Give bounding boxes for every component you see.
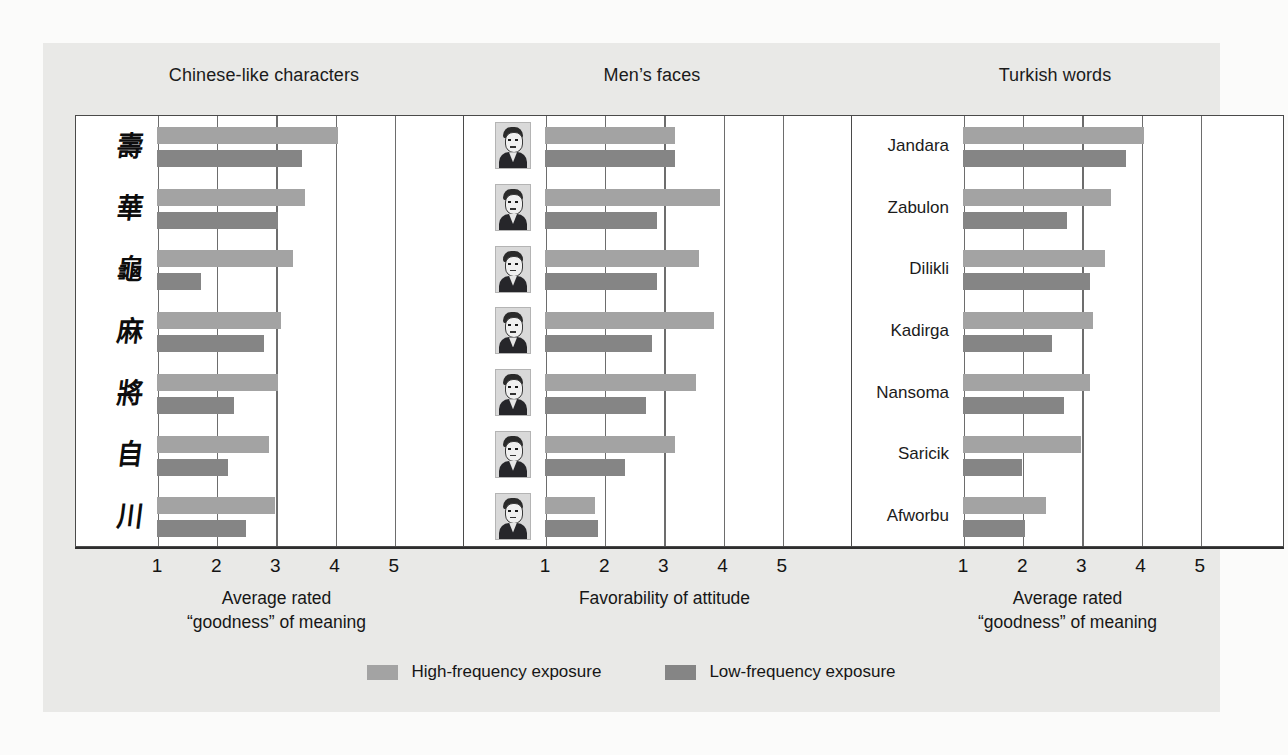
bar-high-frequency xyxy=(545,127,675,144)
x-tick-label: 3 xyxy=(658,555,669,577)
face-head-icon xyxy=(505,317,523,338)
face-eyeL-icon xyxy=(508,201,511,203)
bar-high-frequency xyxy=(963,497,1046,514)
x-axis-title-line2: “goodness” of meaning xyxy=(851,611,1284,635)
bar-high-frequency xyxy=(963,189,1111,206)
face-eyeR-icon xyxy=(515,139,518,141)
row-label: Zabulon xyxy=(888,198,963,218)
x-axis-line xyxy=(463,547,866,549)
face-eyeL-icon xyxy=(508,263,511,265)
legend-swatch-high-icon xyxy=(367,665,398,680)
bar-high-frequency xyxy=(157,436,269,453)
chinese-like-character-glyph: 川 xyxy=(115,502,144,530)
x-axis-title: Favorability of attitude xyxy=(463,587,866,611)
bar-high-frequency xyxy=(545,436,675,453)
bar-high-frequency xyxy=(963,312,1093,329)
panel-title: Men’s faces xyxy=(463,65,841,86)
x-axis-title-line1: Average rated xyxy=(75,587,478,611)
x-tick-label: 2 xyxy=(599,555,610,577)
x-axis-title: Average rated“goodness” of meaning xyxy=(851,587,1284,634)
bar-row-group xyxy=(963,312,1283,362)
bar-low-frequency xyxy=(545,150,675,167)
x-axis-line xyxy=(851,547,1284,549)
row-label-cell: Saricik xyxy=(851,424,963,486)
bar-high-frequency xyxy=(963,127,1144,144)
bar-low-frequency xyxy=(157,397,234,414)
bar-low-frequency xyxy=(963,459,1022,476)
chinese-like-character-glyph: 華 xyxy=(115,194,144,222)
legend-item-high[interactable]: High-frequency exposure xyxy=(367,662,601,682)
panel-2: Men’s faces12345Favorability of attitude xyxy=(463,43,871,712)
figure-container: Chinese-like characters壽華龜麻將自川12345Avera… xyxy=(43,43,1220,712)
row-label-cell xyxy=(463,485,545,547)
bar-high-frequency xyxy=(157,189,305,206)
bar-high-frequency xyxy=(963,250,1105,267)
bar-row-group xyxy=(963,189,1283,239)
row-label-cell xyxy=(463,238,545,300)
bar-low-frequency xyxy=(157,273,201,290)
bar-row-group xyxy=(545,374,865,424)
face-mouth-icon xyxy=(510,393,516,395)
bar-row-group xyxy=(545,497,865,547)
panel-3: Turkish wordsJandaraZabulonDilikliKadirg… xyxy=(851,43,1288,712)
x-tick-label: 5 xyxy=(777,555,788,577)
x-axis-title-line1: Favorability of attitude xyxy=(463,587,866,611)
bar-row-group xyxy=(157,312,477,362)
row-label-cell: Kadirga xyxy=(851,300,963,362)
face-photo xyxy=(495,493,531,540)
face-photo xyxy=(495,431,531,478)
x-tick-label: 4 xyxy=(329,555,340,577)
row-label: Kadirga xyxy=(890,321,963,341)
face-eyeL-icon xyxy=(508,448,511,450)
chinese-like-character-glyph: 龜 xyxy=(115,255,144,283)
bar-row-group xyxy=(963,374,1283,424)
row-label-cell: Zabulon xyxy=(851,177,963,239)
row-label-cell xyxy=(463,115,545,177)
row-label-cell xyxy=(463,300,545,362)
x-tick-label: 1 xyxy=(152,555,163,577)
bar-row-group xyxy=(545,312,865,362)
face-head-icon xyxy=(505,194,523,215)
row-label-cell: 自 xyxy=(75,424,157,486)
row-label-cell xyxy=(463,362,545,424)
row-label-cell: 麻 xyxy=(75,300,157,362)
face-head-icon xyxy=(505,441,523,462)
face-head-icon xyxy=(505,132,523,153)
face-mouth-icon xyxy=(510,331,516,333)
bar-low-frequency xyxy=(157,150,302,167)
chinese-like-character-glyph: 將 xyxy=(115,379,144,407)
bar-low-frequency xyxy=(545,397,646,414)
panel-title: Turkish words xyxy=(851,65,1259,86)
chinese-like-character-glyph: 壽 xyxy=(115,132,144,160)
bar-low-frequency xyxy=(963,212,1067,229)
bar-low-frequency xyxy=(963,150,1126,167)
row-label-cell xyxy=(463,177,545,239)
bar-high-frequency xyxy=(157,250,293,267)
bar-row-group xyxy=(157,127,477,177)
bars-area xyxy=(157,115,477,547)
legend-label: High-frequency exposure xyxy=(411,662,601,682)
row-label: Jandara xyxy=(888,136,963,156)
bars-area xyxy=(963,115,1283,547)
x-axis-line xyxy=(75,547,478,549)
bar-high-frequency xyxy=(963,436,1081,453)
legend-item-low[interactable]: Low-frequency exposure xyxy=(665,662,895,682)
face-mouth-icon xyxy=(510,146,516,148)
face-photo xyxy=(495,184,531,231)
row-label-column: 壽華龜麻將自川 xyxy=(75,115,157,547)
bar-high-frequency xyxy=(157,497,275,514)
row-label-cell: 將 xyxy=(75,362,157,424)
x-tick-label: 4 xyxy=(1135,555,1146,577)
panel-title: Chinese-like characters xyxy=(75,65,453,86)
bar-low-frequency xyxy=(157,459,228,476)
row-label-cell: Dilikli xyxy=(851,238,963,300)
face-photo xyxy=(495,307,531,354)
bar-high-frequency xyxy=(157,127,338,144)
face-eyeL-icon xyxy=(508,386,511,388)
bar-low-frequency xyxy=(157,212,278,229)
bar-high-frequency xyxy=(963,374,1090,391)
face-photo xyxy=(495,369,531,416)
row-label: Nansoma xyxy=(876,383,963,403)
bar-row-group xyxy=(963,436,1283,486)
row-label-column: JandaraZabulonDilikliKadirgaNansomaSaric… xyxy=(851,115,963,547)
